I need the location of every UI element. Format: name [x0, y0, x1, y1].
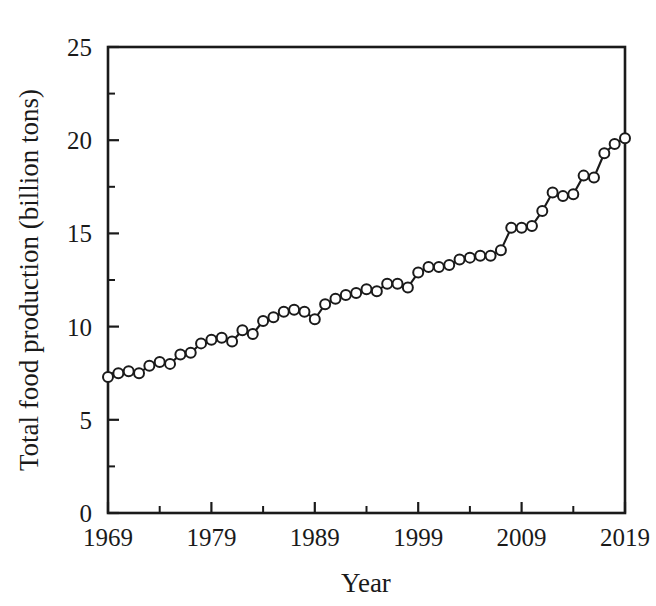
data-point-marker: [279, 307, 289, 317]
x-tick-label: 1999: [393, 524, 443, 551]
y-tick-label: 25: [67, 34, 92, 61]
data-point-marker: [496, 245, 506, 255]
data-point-marker: [289, 305, 299, 315]
data-point-marker: [537, 206, 547, 216]
data-point-marker: [196, 338, 206, 348]
data-point-marker: [558, 191, 568, 201]
data-point-marker: [568, 189, 578, 199]
data-point-marker: [527, 221, 537, 231]
y-tick-label: 5: [80, 407, 93, 434]
data-point-marker: [403, 282, 413, 292]
data-point-marker: [610, 139, 620, 149]
x-axis-title: Year: [341, 568, 391, 598]
data-point-marker: [248, 329, 258, 339]
data-point-marker: [268, 312, 278, 322]
data-point-marker: [465, 253, 475, 263]
series-line-total-food-production: [108, 138, 625, 377]
data-point-marker: [217, 333, 227, 343]
data-point-marker: [341, 290, 351, 300]
data-point-marker: [134, 368, 144, 378]
data-point-marker: [155, 357, 165, 367]
x-axis-tick-labels: 196919791989199920092019: [83, 524, 650, 551]
data-point-marker: [434, 262, 444, 272]
y-tick-label: 10: [67, 314, 92, 341]
series-markers-total-food-production: [103, 133, 630, 382]
data-point-marker: [589, 172, 599, 182]
data-point-marker: [382, 279, 392, 289]
y-tick-label: 15: [67, 220, 92, 247]
data-point-marker: [299, 307, 309, 317]
y-tick-label: 0: [80, 500, 93, 527]
data-point-marker: [413, 268, 423, 278]
y-axis-tick-labels: 0510152025: [67, 34, 92, 527]
y-tick-label: 20: [67, 127, 92, 154]
data-point-marker: [310, 314, 320, 324]
data-point-marker: [599, 148, 609, 158]
data-point-marker: [320, 299, 330, 309]
plot-frame: [108, 47, 625, 513]
data-point-marker: [506, 223, 516, 233]
x-tick-label: 1969: [83, 524, 133, 551]
data-point-marker: [548, 187, 558, 197]
data-point-marker: [144, 361, 154, 371]
data-point-marker: [455, 255, 465, 265]
data-point-marker: [103, 372, 113, 382]
data-point-marker: [165, 359, 175, 369]
data-point-marker: [258, 316, 268, 326]
chart-canvas: 0510152025 196919791989199920092019 Year…: [0, 0, 656, 606]
x-tick-label: 2019: [600, 524, 650, 551]
data-point-marker: [206, 335, 216, 345]
data-point-marker: [113, 368, 123, 378]
data-point-marker: [362, 284, 372, 294]
x-axis-ticks: [108, 502, 625, 513]
data-point-marker: [393, 279, 403, 289]
data-point-marker: [424, 262, 434, 272]
data-point-marker: [186, 348, 196, 358]
y-axis-title: Total food production (billion tons): [14, 89, 44, 471]
data-point-marker: [372, 286, 382, 296]
data-point-marker: [444, 260, 454, 270]
data-point-marker: [486, 251, 496, 261]
x-tick-label: 1989: [290, 524, 340, 551]
data-point-marker: [475, 251, 485, 261]
data-point-marker: [227, 337, 237, 347]
data-point-marker: [620, 133, 630, 143]
data-point-marker: [237, 325, 247, 335]
data-point-marker: [330, 294, 340, 304]
y-axis-ticks: [108, 47, 119, 513]
data-point-marker: [175, 350, 185, 360]
data-series-group: [103, 133, 630, 382]
data-point-marker: [579, 171, 589, 181]
x-tick-label: 2009: [497, 524, 547, 551]
data-point-marker: [124, 366, 134, 376]
x-tick-label: 1979: [186, 524, 236, 551]
data-point-marker: [351, 288, 361, 298]
data-point-marker: [517, 223, 527, 233]
chart-figure: 0510152025 196919791989199920092019 Year…: [0, 0, 656, 606]
